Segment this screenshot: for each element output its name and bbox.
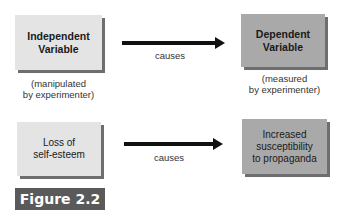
dependent-caption-line2: by experimenter): [249, 84, 320, 95]
increased-line3: to propaganda: [252, 153, 317, 164]
causes-label-bottom: causes: [139, 152, 199, 163]
increased-line2: susceptibility: [256, 141, 313, 152]
dependent-line1: Dependent: [256, 28, 310, 40]
independent-line1: Independent: [27, 30, 89, 42]
independent-line2: Variable: [38, 43, 78, 55]
loss-line1: Loss of: [43, 137, 75, 148]
independent-variable-box: IndependentVariable: [15, 15, 102, 70]
dependent-caption-line1: (measured: [262, 73, 307, 84]
figure-label: Figure 2.2: [15, 188, 105, 210]
dependent-caption: (measuredby experimenter): [236, 73, 333, 96]
loss-of-self-esteem-box: Loss ofself-esteem: [17, 122, 101, 176]
independent-caption: (manipulatedby experimenter): [10, 78, 107, 101]
loss-line2: self-esteem: [33, 149, 85, 160]
independent-caption-line2: by experimenter): [23, 89, 94, 100]
causes-arrow-bottom: [124, 142, 214, 146]
independent-caption-line1: (manipulated: [31, 78, 86, 89]
dependent-variable-box: DependentVariable: [241, 14, 325, 67]
increased-line1: Increased: [263, 129, 307, 140]
causes-label-top: causes: [140, 50, 200, 61]
dependent-line2: Variable: [263, 41, 303, 53]
causes-arrow-top: [122, 41, 216, 45]
increased-susceptibility-box: Increasedsusceptibilityto propaganda: [242, 119, 327, 174]
